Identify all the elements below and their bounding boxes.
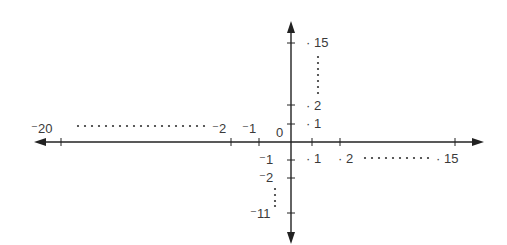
label-x-pos-1: · 1	[306, 151, 321, 166]
x-axis-right-arrow-icon	[472, 138, 484, 146]
x-axis-left-arrow-icon	[34, 138, 46, 146]
label-x-pos-2: · 2	[338, 151, 353, 166]
label-y-pos-15: · 15	[306, 35, 328, 50]
coordinate-plane: ⁻20 ⁻2 ⁻1 0 · 1 · 2 · 15 · 15 · 2 · 1 ⁻1…	[0, 0, 507, 245]
x-positive-ellipsis	[364, 157, 429, 159]
x-negative-ellipsis	[77, 125, 205, 127]
label-x-neg-1: ⁻1	[242, 121, 256, 136]
label-y-pos-2: · 2	[306, 98, 321, 113]
label-origin: 0	[276, 125, 283, 140]
y-axis-up-arrow-icon	[287, 21, 295, 33]
label-y-neg-11: ⁻11	[250, 206, 271, 221]
y-positive-ellipsis	[317, 56, 319, 94]
y-negative-ellipsis	[274, 188, 276, 207]
label-x-neg-2: ⁻2	[212, 121, 226, 136]
label-y-neg-2: ⁻2	[259, 170, 273, 185]
label-y-neg-1: ⁻1	[259, 152, 273, 167]
label-x-pos-15: · 15	[436, 151, 458, 166]
label-x-neg-20: ⁻20	[31, 121, 52, 136]
y-axis-down-arrow-icon	[287, 232, 295, 244]
label-y-pos-1: · 1	[306, 116, 321, 131]
